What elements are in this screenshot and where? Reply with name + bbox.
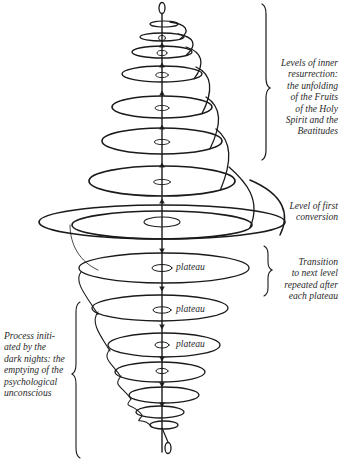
upper-spiral-sweep xyxy=(206,97,219,149)
plateau-label-1: plateau xyxy=(176,261,205,272)
upper-spiral-sweep xyxy=(216,129,229,190)
plateau-label-3: plateau xyxy=(176,338,205,349)
lower-loop xyxy=(79,253,249,283)
axis-arrow-down xyxy=(160,357,164,361)
lower-loop xyxy=(129,387,199,403)
axis-arrow-up xyxy=(160,91,164,95)
upper-spiral-loops xyxy=(89,21,254,228)
annotation-dark-nights: Process initi- ated by the dark nights: … xyxy=(4,330,74,398)
axis-arrow-up xyxy=(160,163,164,167)
upper-loop xyxy=(150,21,178,27)
annotation-transition: Transition to next level repeated after … xyxy=(258,256,338,302)
upper-spiral-sweep xyxy=(178,34,193,56)
annotation-levels-of-resurrection: Levels of inner resurrection: the unfold… xyxy=(258,57,338,137)
axis-arrow-down xyxy=(160,325,164,329)
plateau-label-2: plateau xyxy=(176,303,205,314)
upper-spiral-sweep xyxy=(196,67,210,114)
lower-spiral-sweep xyxy=(107,349,121,377)
bottom-ring xyxy=(165,443,171,454)
spiral-group xyxy=(39,3,285,459)
lower-loop xyxy=(115,362,205,382)
axis-arrow-up xyxy=(160,199,164,203)
lower-loop xyxy=(136,406,184,418)
axis-arrow-up xyxy=(160,43,164,47)
upper-spiral-sweep xyxy=(186,47,201,79)
lower-loop xyxy=(150,421,178,429)
bottom-connector xyxy=(162,428,168,442)
axis-arrow-up xyxy=(160,63,164,67)
axis-arrow-down xyxy=(160,287,164,291)
annotation-first-conversion: Level of first conversion xyxy=(258,200,338,223)
lower-spiral-sweep xyxy=(79,272,98,315)
lower-loop xyxy=(92,295,228,321)
axis-arrow-up xyxy=(160,125,164,129)
top-ring xyxy=(159,3,165,14)
lower-spiral-loops xyxy=(79,249,249,429)
